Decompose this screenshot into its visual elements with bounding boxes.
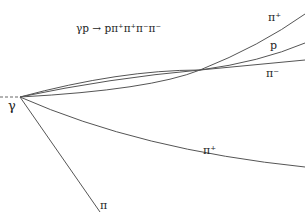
label-pi-minus: π⁻ xyxy=(266,68,279,79)
reaction-equation: γp → pπ⁺π⁺π⁻π⁻ xyxy=(76,22,161,34)
vertex-label-gamma: γ xyxy=(8,100,16,111)
reaction-rhs: pπ⁺π⁺π⁻π⁻ xyxy=(105,22,162,34)
reaction-lhs: γp xyxy=(76,22,89,34)
reaction-arrow: → xyxy=(92,22,101,34)
track-pi xyxy=(20,97,100,212)
label-proton: p xyxy=(270,40,277,51)
track-pi-plus-lower xyxy=(20,97,305,167)
label-pi-plus-lower: π⁺ xyxy=(203,145,216,156)
label-pi-plus-upper: π⁺ xyxy=(268,12,281,23)
track-pi-plus-upper xyxy=(20,14,305,97)
track-pi-minus xyxy=(20,60,305,97)
label-pi: π xyxy=(100,200,107,211)
